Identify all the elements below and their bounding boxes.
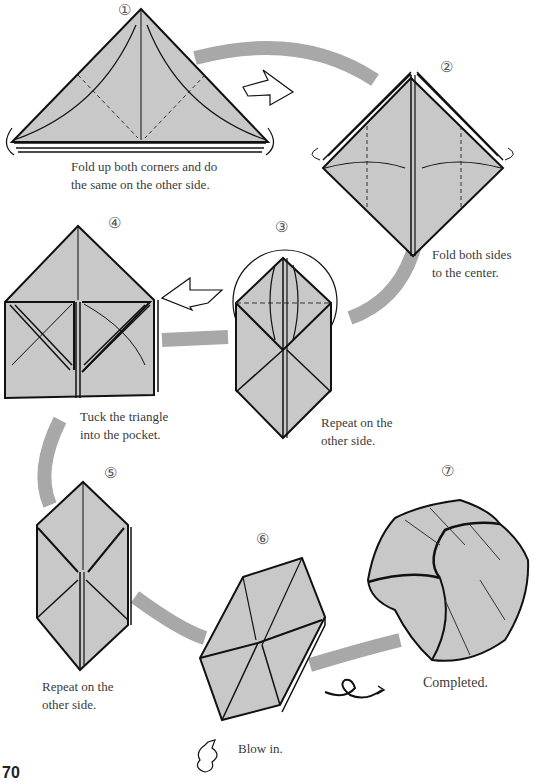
step-4-number: ④ xyxy=(108,214,121,232)
step-6-number: ⑥ xyxy=(256,530,269,548)
step-7-caption: Completed. xyxy=(423,674,488,692)
step-3-number: ③ xyxy=(275,218,288,236)
step-7-number: ⑦ xyxy=(441,462,454,480)
step-4-figure xyxy=(5,226,158,398)
blow-puff-icon xyxy=(197,740,217,772)
page-number: 70 xyxy=(2,764,20,782)
step-5-caption: Repeat on the other side. xyxy=(42,678,113,714)
step-6-figure xyxy=(200,558,325,720)
step-4-caption: Tuck the triangle into the pocket. xyxy=(80,408,168,444)
arrow-3-to-4 xyxy=(162,278,222,310)
step-2-figure xyxy=(312,72,513,256)
step-3-figure xyxy=(233,250,337,438)
arrow-1-to-2 xyxy=(243,70,293,105)
step-6-caption: Blow in. xyxy=(238,740,283,758)
step-1-number: ① xyxy=(118,1,131,19)
turn-over-arrow-icon xyxy=(325,680,382,698)
step-5-number: ⑤ xyxy=(104,464,117,482)
step-5-figure xyxy=(37,482,131,670)
step-1-caption: Fold up both corners and do the same on … xyxy=(71,158,217,194)
step-2-number: ② xyxy=(440,58,453,76)
step-3-caption: Repeat on the other side. xyxy=(321,414,392,450)
step-2-caption: Fold both sides to the center. xyxy=(432,246,511,282)
step-1-figure xyxy=(6,9,273,155)
